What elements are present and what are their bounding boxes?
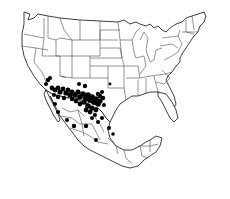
occurrence-dot [72,124,76,128]
occurrence-dot [107,126,111,130]
florida [158,92,178,122]
occurrence-dot [111,132,115,136]
occurrence-dot [52,93,56,97]
occurrence-dot [65,118,69,122]
occurrence-dot [84,124,88,128]
occurrence-dot [102,103,106,107]
occurrence-dot [61,87,66,92]
occurrence-dot [62,96,66,100]
distribution-map [0,0,230,199]
occurrence-dot [94,108,99,113]
occurrence-dot [83,84,87,88]
occurrence-dot [74,99,79,104]
occurrence-dot [96,92,100,96]
occurrence-dot [94,138,98,142]
occurrence-dot [100,116,104,120]
occurrence-dot [56,110,60,114]
occurrence-dot [56,95,60,99]
occurrence-dot [90,116,94,120]
occurrence-dot [101,96,105,100]
occurrence-dot [53,102,57,106]
occurrence-dot [109,83,112,86]
occurrence-dot [44,82,48,86]
occurrence-dot [84,108,89,113]
occurrence-dot [70,97,74,101]
occurrence-dot [93,113,97,117]
occurrence-dot [77,82,81,86]
occurrence-dot [48,76,52,80]
occurrence-dot [75,89,80,94]
occurrence-dot [100,90,104,94]
occurrence-dot [78,102,83,107]
occurrence-dot [96,120,100,124]
